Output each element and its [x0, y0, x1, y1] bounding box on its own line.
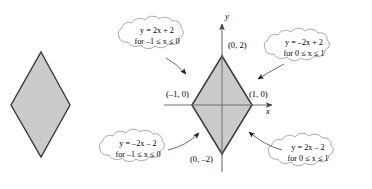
leader-arrow-top-left	[166, 58, 186, 74]
callout-top-left-equation: y = 2x + 2	[119, 26, 195, 37]
left-rhombus-shape	[11, 52, 70, 157]
callout-top-right-text: y = –2x + 2 for 0 ≤ x ≤ 1	[265, 38, 343, 59]
callout-top-left-domain: for –1 ≤ x ≤ 0	[119, 37, 195, 48]
callout-bottom-right-equation: y = 2x – 2	[269, 143, 347, 154]
x-axis-label: x	[266, 106, 270, 116]
callout-top-right-domain: for 0 ≤ x ≤ 1	[265, 49, 343, 60]
callout-top-right-equation: y = –2x + 2	[265, 38, 343, 49]
callout-bottom-right-domain: for 0 ≤ x ≤ 1	[269, 154, 347, 165]
callout-top-left-text: y = 2x + 2 for –1 ≤ x ≤ 0	[119, 26, 195, 47]
callout-bottom-left-text: y = –2x – 2 for –1 ≤ x ≤ 0	[100, 139, 176, 160]
callout-bottom-left-domain: for –1 ≤ x ≤ 0	[100, 150, 176, 161]
vertex-label-top: (0, 2)	[228, 40, 247, 50]
leader-arrow-top-right	[258, 64, 284, 79]
y-axis-label: y	[225, 11, 229, 21]
vertex-label-right: (1, 0)	[249, 89, 268, 99]
vertex-label-left: (–1, 0)	[166, 89, 189, 99]
vertex-label-bottom: (0, –2)	[190, 154, 213, 164]
callout-bottom-left-equation: y = –2x – 2	[100, 139, 176, 150]
callout-bottom-right-text: y = 2x – 2 for 0 ≤ x ≤ 1	[269, 143, 347, 164]
figure-canvas: y = 2x + 2 for –1 ≤ x ≤ 0 y = –2x + 2 fo…	[0, 0, 372, 189]
